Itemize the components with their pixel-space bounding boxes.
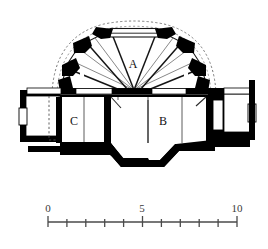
architectural-section-figure: A B C 0 5 10 (0, 0, 268, 249)
scale-label-0: 0 (45, 202, 51, 214)
room-label-A: A (129, 57, 138, 71)
dome-lantern-opening (110, 29, 158, 38)
scale-bar: 0 5 10 (45, 202, 243, 227)
building-cross-section-drawing: A B C 0 5 10 (0, 0, 268, 249)
ground-floor-interior (60, 97, 212, 140)
scale-label-10: 10 (232, 202, 244, 214)
left-wing-wall (19, 88, 61, 142)
scale-bar-labels: 0 5 10 (45, 202, 243, 214)
scale-label-5: 5 (139, 202, 145, 214)
room-label-C: C (70, 114, 78, 128)
right-wing-wall (208, 80, 256, 140)
cornice-band (56, 88, 212, 98)
room-label-B: B (159, 114, 167, 128)
